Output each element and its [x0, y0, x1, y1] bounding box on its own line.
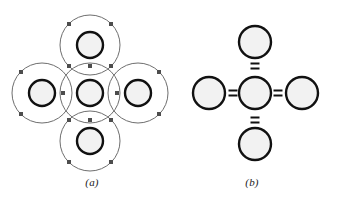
electron-dot — [67, 22, 71, 26]
bottom-nucleus — [77, 128, 103, 154]
panel-a-caption: (a) — [72, 176, 112, 188]
right-atom-circle — [286, 77, 318, 109]
electron-dot — [115, 91, 119, 95]
panel-a-group — [12, 15, 168, 171]
diagram-canvas — [0, 0, 339, 199]
panel-b-group — [193, 26, 318, 160]
center-atom-circle — [239, 77, 271, 109]
panel-b-caption: (b) — [232, 176, 272, 188]
top-atom-circle — [239, 26, 271, 58]
figure-container: (a) (b) — [0, 0, 339, 199]
electron-dot — [109, 64, 113, 68]
electron-dot — [19, 70, 23, 74]
bond-bottom — [251, 118, 260, 123]
electron-dot — [61, 91, 65, 95]
bond-top — [251, 64, 260, 69]
electron-dot — [109, 22, 113, 26]
left-atom-circle — [193, 77, 225, 109]
electron-dot — [157, 70, 161, 74]
right-nucleus — [125, 80, 151, 106]
electron-dot — [88, 64, 92, 68]
electron-dot — [67, 64, 71, 68]
center-nucleus — [77, 80, 103, 106]
electron-dot — [109, 160, 113, 164]
electron-dot — [88, 118, 92, 122]
left-nucleus — [29, 80, 55, 106]
electron-dot — [19, 112, 23, 116]
bond-left — [229, 91, 238, 96]
top-nucleus — [77, 32, 103, 58]
bond-right — [274, 91, 283, 96]
electron-dot — [109, 118, 113, 122]
electron-dot — [67, 118, 71, 122]
electron-dot — [67, 160, 71, 164]
bottom-atom-circle — [239, 128, 271, 160]
electron-dot — [157, 112, 161, 116]
